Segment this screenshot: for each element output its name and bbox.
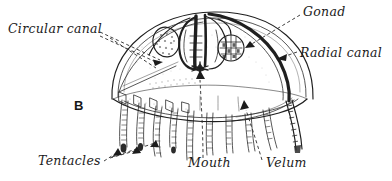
label-circular-canal: Circular canal bbox=[8, 21, 102, 36]
tentacle bbox=[120, 100, 128, 153]
label-gonad: Gonad bbox=[303, 4, 346, 19]
tentacle bbox=[153, 106, 162, 157]
label-mouth: Mouth bbox=[187, 155, 231, 170]
tentacle bbox=[200, 96, 239, 111]
tentacle bbox=[187, 110, 194, 161]
leader-tentacles bbox=[104, 140, 159, 161]
tentacle bbox=[137, 103, 145, 151]
figure-container: Circular canal Gonad Radial canal Tentac… bbox=[0, 0, 392, 181]
tentacle-group bbox=[120, 96, 302, 161]
label-radial-canal: Radial canal bbox=[299, 45, 382, 60]
label-tentacles: Tentacles bbox=[38, 153, 101, 168]
panel-letter-b: B bbox=[74, 98, 83, 113]
leader-mouth bbox=[196, 70, 205, 158]
circular-canal bbox=[113, 85, 307, 121]
leader-velum bbox=[240, 100, 262, 160]
radial-canal bbox=[149, 14, 289, 101]
tentacle bbox=[170, 108, 178, 153]
hydromedusa-diagram: Circular canal Gonad Radial canal Tentac… bbox=[0, 0, 392, 181]
tentacle bbox=[286, 100, 302, 153]
tentacle bbox=[206, 113, 213, 155]
label-velum: Velum bbox=[266, 155, 307, 170]
